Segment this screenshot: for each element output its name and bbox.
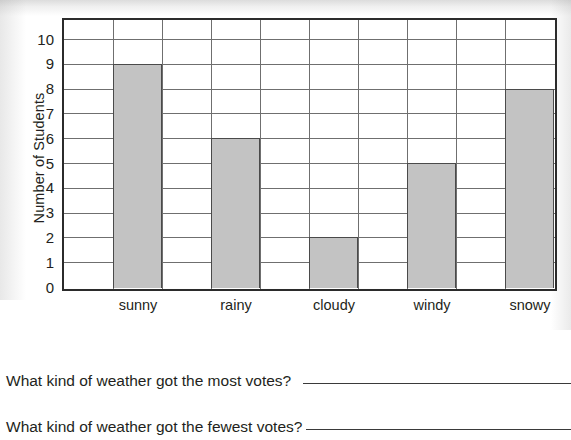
bar-chart: Number of Students 109876543210 sunnyrai… <box>0 0 571 330</box>
gridline-x-2 <box>162 20 163 289</box>
y-tick-label-0: 0 <box>28 280 54 295</box>
y-tick-label-5: 5 <box>28 156 54 171</box>
x-tick-label-cloudy: cloudy <box>279 297 389 313</box>
y-tick-label-2: 2 <box>28 230 54 245</box>
answer-blank-2[interactable] <box>306 429 571 430</box>
answer-blank-1[interactable] <box>303 383 571 384</box>
y-tick-label-7: 7 <box>28 106 54 121</box>
x-tick-label-windy: windy <box>377 297 487 313</box>
gridline-x-4 <box>260 20 261 289</box>
y-tick-label-1: 1 <box>28 255 54 270</box>
y-tick-label-9: 9 <box>28 56 54 71</box>
gridline-x-8 <box>456 20 457 289</box>
x-tick-label-rainy: rainy <box>181 297 291 313</box>
bar-windy <box>407 163 456 288</box>
worksheet-questions: What kind of weather got the most votes?… <box>0 330 571 440</box>
question-2-text: What kind of weather got the fewest vote… <box>6 418 302 436</box>
question-1-text: What kind of weather got the most votes? <box>6 372 291 390</box>
x-tick-label-sunny: sunny <box>83 297 193 313</box>
question-row-2: What kind of weather got the fewest vote… <box>6 418 571 436</box>
x-tick-label-snowy: snowy <box>475 297 571 313</box>
bar-sunny <box>113 64 162 288</box>
question-row-1: What kind of weather got the most votes? <box>6 372 571 390</box>
y-tick-label-10: 10 <box>28 32 54 47</box>
bar-rainy <box>211 138 260 288</box>
plot-frame <box>62 18 557 291</box>
y-tick-label-3: 3 <box>28 205 54 220</box>
bar-cloudy <box>309 237 358 288</box>
gridline-x-6 <box>358 20 359 289</box>
y-tick-label-6: 6 <box>28 131 54 146</box>
y-tick-label-4: 4 <box>28 180 54 195</box>
y-tick-label-8: 8 <box>28 81 54 96</box>
bar-snowy <box>505 89 554 288</box>
